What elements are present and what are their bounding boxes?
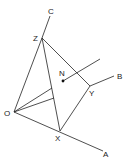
label-x: X [55,134,61,143]
inner-line-2 [14,98,54,112]
axis-yb [90,76,114,86]
point-n-dot [62,80,65,83]
label-a: A [103,150,109,159]
edge-xy [60,86,90,131]
label-z: Z [33,34,38,43]
edge-zx [42,38,60,131]
tetrahedron-diagram: C Z N B Y O X A [0,0,130,159]
label-n: N [59,69,65,78]
axis-zc [42,16,50,38]
label-b: B [117,72,122,81]
edge-oz [14,38,42,112]
label-o: O [4,109,10,118]
axis-oa [14,112,103,151]
label-y: Y [89,89,95,98]
label-c: C [48,7,54,16]
diagram: C Z N B Y O X A [0,0,130,159]
inner-line-1 [14,88,52,112]
